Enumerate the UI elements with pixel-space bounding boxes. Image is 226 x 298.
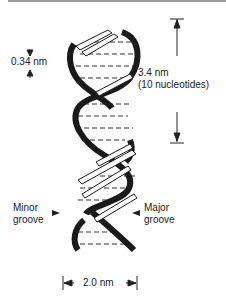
minor-groove-label-line1: Minor xyxy=(13,202,38,214)
pitch-label: 3.4 nm xyxy=(138,67,169,79)
major-groove-label-line2: groove xyxy=(144,214,175,226)
base-spacing-label: 0.34 nm xyxy=(11,56,47,68)
diameter-label: 2.0 nm xyxy=(83,277,114,289)
dna-helix-diagram xyxy=(0,0,226,298)
pitch-note-label: (10 nucleotides) xyxy=(138,79,209,91)
major-groove-label-line1: Major xyxy=(144,202,169,214)
minor-groove-label-line2: groove xyxy=(13,214,44,226)
